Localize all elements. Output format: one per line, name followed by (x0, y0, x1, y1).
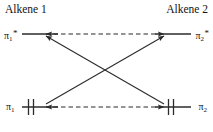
diagram-canvas (0, 0, 213, 132)
mo-interaction-diagram: Alkene 1 Alkene 2 π1* π2* π1 π2 (0, 0, 213, 132)
